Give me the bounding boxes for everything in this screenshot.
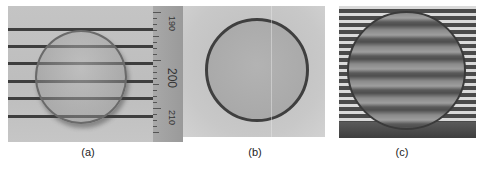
- panel-c-image: [339, 6, 476, 138]
- ruler-label-major: 200: [165, 68, 179, 88]
- caption-b: (b): [248, 146, 261, 158]
- droplet: [205, 18, 309, 122]
- ruler-label: 190: [167, 16, 177, 31]
- ruler-label: 210: [167, 110, 177, 125]
- droplet: [35, 30, 127, 124]
- droplet-with-fringes: [347, 11, 466, 130]
- panel-b-image: [183, 6, 325, 137]
- caption-a: (a): [81, 146, 94, 158]
- scan-line: [271, 6, 272, 137]
- caption-c: (c): [396, 146, 409, 158]
- ruler: 190 200 210: [153, 6, 183, 142]
- panel-a-image: 190 200 210: [8, 6, 183, 142]
